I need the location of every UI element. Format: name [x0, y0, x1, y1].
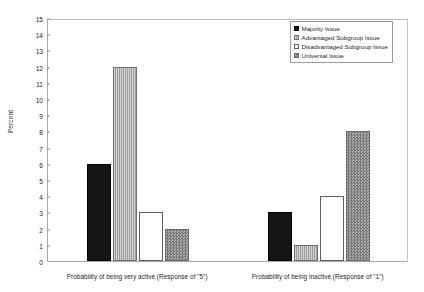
y-axis-tick-label: 4	[0, 194, 47, 201]
y-axis-tick-label: 14	[0, 32, 47, 39]
legend: Majority IssueAdvantaged Subgroup IssueD…	[290, 21, 393, 63]
bar	[320, 196, 344, 261]
legend-label: Disadvantaged Subgroup Issue	[302, 42, 388, 51]
legend-item: Universal Issue	[294, 51, 388, 60]
y-axis-tick-mark	[47, 213, 50, 214]
bar	[294, 245, 318, 261]
legend-item: Disadvantaged Subgroup Issue	[294, 42, 388, 51]
y-axis-tick-label: 2	[0, 226, 47, 233]
legend-swatch-icon	[294, 35, 299, 40]
y-axis-tick-label: 9	[0, 113, 47, 120]
y-axis-tick-mark	[47, 245, 50, 246]
y-axis-tick-mark	[47, 35, 50, 36]
y-axis-tick-label: 7	[0, 145, 47, 152]
y-axis-tick-mark	[47, 132, 50, 133]
y-axis-tick-mark	[47, 67, 50, 68]
bar	[165, 229, 189, 261]
bar-chart: Percent 0123456789101112131415 Probabili…	[0, 0, 424, 292]
bar	[113, 67, 137, 261]
y-axis-tick-label: 6	[0, 161, 47, 168]
y-axis-tick-label: 0	[0, 259, 47, 266]
y-axis-tick-label: 11	[0, 80, 47, 87]
y-axis-tick-label: 12	[0, 64, 47, 71]
y-axis-tick-mark	[47, 51, 50, 52]
y-axis-tick-mark	[47, 181, 50, 182]
legend-label: Universal Issue	[302, 51, 344, 60]
y-axis-tick-mark	[47, 229, 50, 230]
y-axis-tick-label: 5	[0, 178, 47, 185]
legend-swatch-icon	[294, 53, 299, 58]
bar	[139, 212, 163, 261]
bar	[268, 212, 292, 261]
legend-swatch-icon	[294, 26, 299, 31]
y-axis-tick-mark	[47, 148, 50, 149]
legend-swatch-icon	[294, 44, 299, 49]
y-axis-tick-mark	[47, 197, 50, 198]
y-axis-tick-label: 1	[0, 242, 47, 249]
y-axis-tick-label: 13	[0, 48, 47, 55]
y-axis-tick-label: 8	[0, 129, 47, 136]
legend-item: Majority Issue	[294, 24, 388, 33]
y-axis-tick-mark	[47, 83, 50, 84]
legend-label: Advantaged Subgroup Issue	[302, 33, 380, 42]
legend-item: Advantaged Subgroup Issue	[294, 33, 388, 42]
bar	[346, 131, 370, 261]
bar	[87, 164, 111, 261]
y-axis-tick-label: 10	[0, 97, 47, 104]
y-axis-tick-mark	[47, 19, 50, 20]
category-label: Probability of being inactive (Response …	[208, 273, 424, 280]
y-axis-tick-mark	[47, 164, 50, 165]
y-axis-tick-label: 15	[0, 16, 47, 23]
y-axis-tick-mark	[47, 116, 50, 117]
y-axis-tick-label: 3	[0, 210, 47, 217]
y-axis-tick-mark	[47, 100, 50, 101]
legend-label: Majority Issue	[302, 24, 340, 33]
